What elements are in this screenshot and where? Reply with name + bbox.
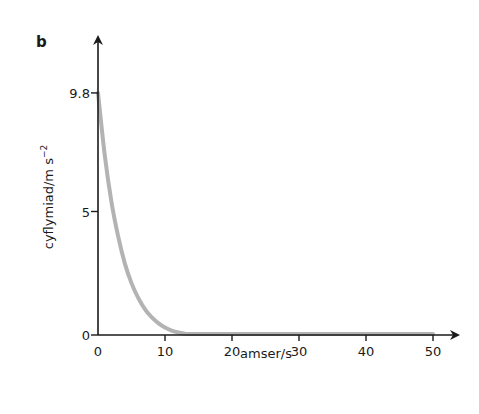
x-tick-label: 20 xyxy=(224,344,241,359)
x-axis-label: amser/s xyxy=(240,346,292,361)
y-axis-label: cyflymiad/m s−2 xyxy=(39,145,56,249)
x-tick-label: 30 xyxy=(291,344,308,359)
y-tick-label: 5 xyxy=(82,204,90,219)
x-tick-label: 50 xyxy=(425,344,442,359)
data-series-acceleration xyxy=(98,93,433,334)
y-axis-label-exponent: −2 xyxy=(39,145,49,158)
y-axis-label-text: cyflymiad/m s xyxy=(41,158,56,249)
y-tick-label: 9.8 xyxy=(69,85,90,100)
x-tick-label: 40 xyxy=(358,344,375,359)
x-tick-label: 0 xyxy=(94,344,102,359)
y-ticks xyxy=(91,93,98,335)
x-tick-label: 10 xyxy=(157,344,174,359)
y-tick-label: 0 xyxy=(82,328,90,343)
